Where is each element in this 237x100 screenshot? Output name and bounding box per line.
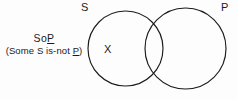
circle-label-p: P (221, 2, 229, 13)
existential-x-marker: X (104, 44, 112, 55)
proposition-code-prefix: So (34, 32, 47, 44)
circle-label-s: S (81, 2, 89, 13)
proposition-annotation: SoP (Some S is-not P) (0, 32, 88, 57)
circle-predicate-p (145, 8, 226, 89)
venn-diagram-figure: S P X SoP (Some S is-not P) (0, 0, 237, 100)
circle-subject-s (88, 11, 163, 86)
proposition-code-predicate: P (47, 32, 54, 44)
proposition-gloss: (Some S is-not P) (0, 45, 88, 57)
proposition-gloss-prefix: (Some S is-not (6, 45, 73, 56)
proposition-code: SoP (0, 32, 88, 44)
proposition-gloss-suffix: ) (79, 45, 82, 56)
